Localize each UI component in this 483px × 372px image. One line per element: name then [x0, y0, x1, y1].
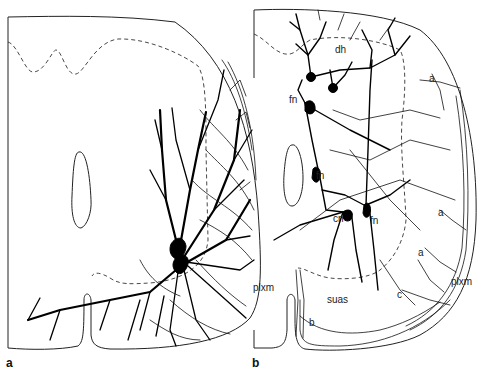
label-fn-3: fn: [370, 216, 378, 226]
label-fn-1: fn: [289, 95, 297, 105]
figure: a b dh fn fn cn fn a a a plxm plxm suas …: [0, 0, 483, 372]
label-fn-2: fn: [316, 171, 324, 181]
panel-a-drawing: [8, 16, 260, 349]
panel-b-drawing: [254, 9, 476, 350]
figure-drawing: [0, 0, 483, 372]
panel-label-a: a: [6, 357, 13, 369]
label-a-3: a: [418, 248, 424, 258]
label-b: b: [309, 318, 315, 328]
label-suas: suas: [327, 295, 348, 305]
label-plxm-right: plxm: [451, 277, 472, 287]
label-dh: dh: [335, 45, 346, 55]
label-c: c: [397, 290, 402, 300]
label-a-1: a: [429, 74, 435, 84]
label-plxm-left: plxm: [253, 283, 274, 293]
panel-label-b: b: [252, 357, 259, 369]
label-a-2: a: [438, 208, 444, 218]
label-cn: cn: [333, 214, 344, 224]
